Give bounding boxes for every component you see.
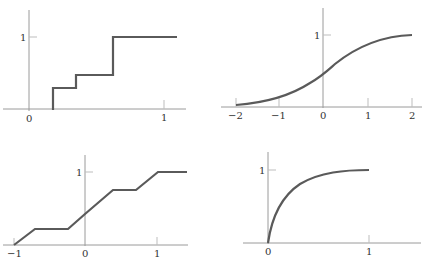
x-tick-label: 1 <box>161 112 167 123</box>
concave-curve <box>268 170 369 243</box>
x-tick-label: 1 <box>154 248 160 259</box>
y-tick-label: 1 <box>20 32 26 43</box>
chart-step-cdf: 1 0 1 <box>3 10 186 124</box>
x-tick-label: 1 <box>366 246 372 257</box>
cdf-figure: 1 0 1 1 −2 −1 0 1 2 1 −1 0 1 <box>0 0 427 268</box>
x-tick-label: 0 <box>320 110 326 121</box>
s-curve <box>236 35 412 105</box>
x-tick-label: −1 <box>271 110 286 121</box>
x-tick-label: 0 <box>265 246 271 257</box>
y-tick-label: 1 <box>314 30 320 41</box>
x-tick-label: 1 <box>365 110 371 121</box>
chart-piecewise-cdf: 1 −1 0 1 <box>3 155 188 259</box>
x-tick-label: 0 <box>26 113 32 124</box>
chart-concave-cdf: 1 0 1 <box>243 152 421 257</box>
y-tick-label: 1 <box>76 167 82 178</box>
x-tick-label: 2 <box>409 110 415 121</box>
piecewise-curve <box>14 172 187 245</box>
x-tick-label: 0 <box>82 248 88 259</box>
x-tick-label: −1 <box>7 248 22 259</box>
chart-smooth-cdf: 1 −2 −1 0 1 2 <box>221 8 422 121</box>
x-tick-label: −2 <box>228 110 243 121</box>
y-tick-label: 1 <box>259 165 265 176</box>
step-curve <box>53 37 177 110</box>
